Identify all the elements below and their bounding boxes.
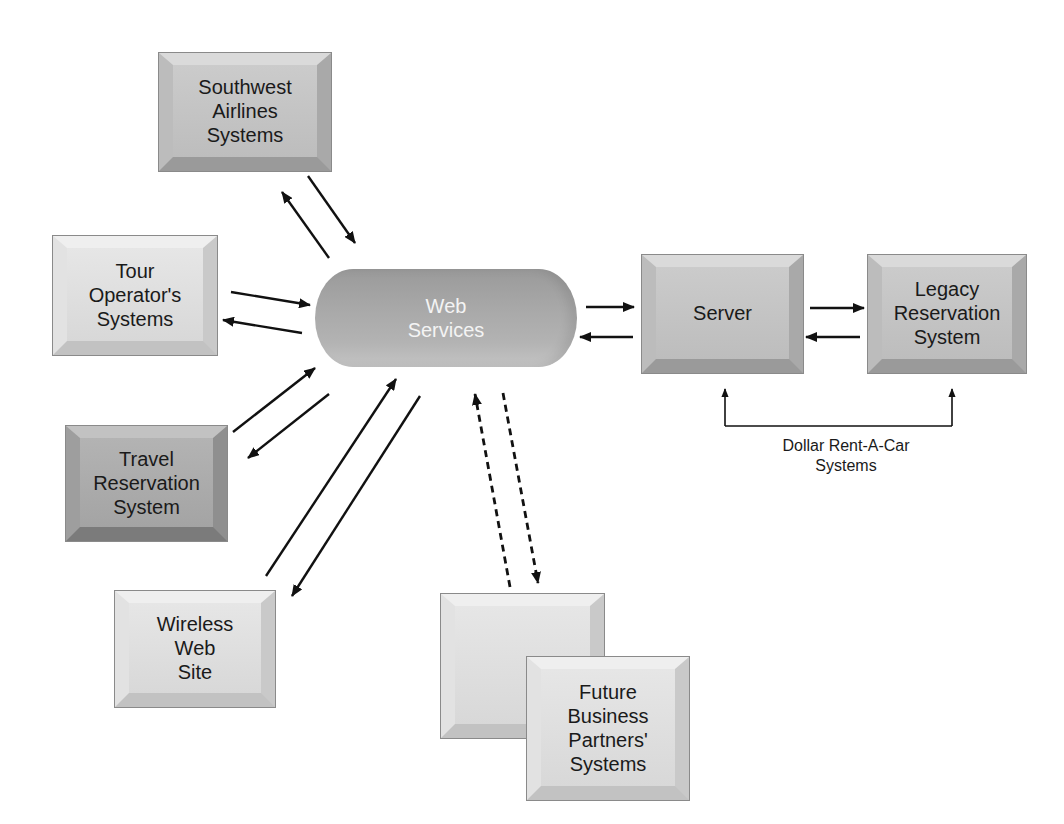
node-legacy-reservation-system: Legacy Reservation System <box>867 254 1027 374</box>
hub-web-services: Web Services <box>315 269 577 367</box>
arrow-webservices-to-southwest <box>282 192 329 258</box>
arrow-southwest-to-webservices <box>308 176 355 243</box>
arrow-webservices-to-travel <box>248 394 329 458</box>
node-travel-reservation-system: Travel Reservation System <box>65 425 228 542</box>
node-server: Server <box>641 254 804 374</box>
node-tour-operators-systems: Tour Operator's Systems <box>52 235 218 356</box>
architecture-diagram: Southwest Airlines Systems Tour Operator… <box>0 0 1064 824</box>
arrow-webservices-to-wireless <box>292 396 420 596</box>
arrow-tour-to-webservices <box>231 292 310 305</box>
node-label: Tour Operator's Systems <box>67 248 203 341</box>
node-label: Legacy Reservation System <box>882 267 1012 359</box>
node-label: Future Business Partners' Systems <box>541 669 675 786</box>
caption-dollar-rent-a-car-systems: Dollar Rent-A-Car Systems <box>730 436 962 476</box>
arrow-future-to-webservices <box>475 394 510 587</box>
arrow-travel-to-webservices <box>233 368 315 432</box>
node-wireless-web-site: Wireless Web Site <box>114 590 276 708</box>
node-label: Server <box>656 267 789 359</box>
arrow-webservices-to-future <box>503 393 538 583</box>
node-future-business-partners-systems: Future Business Partners' Systems <box>526 656 690 801</box>
arrow-wireless-to-webservices <box>266 379 396 576</box>
arrow-webservices-to-tour <box>223 320 302 333</box>
node-label: Southwest Airlines Systems <box>173 65 317 157</box>
node-label: Travel Reservation System <box>80 438 213 527</box>
node-label: Wireless Web Site <box>129 603 261 693</box>
node-southwest-airlines-systems: Southwest Airlines Systems <box>158 52 332 172</box>
